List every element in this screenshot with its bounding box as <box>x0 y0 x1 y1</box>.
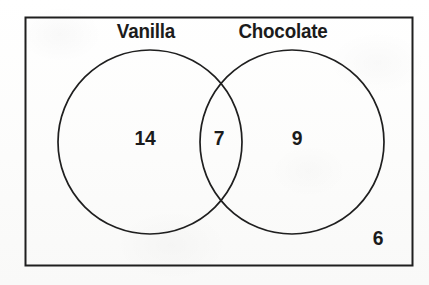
vanilla-set-label: Vanilla <box>99 20 193 43</box>
chocolate-only-count: 9 <box>276 126 318 150</box>
chocolate-set-label: Chocolate <box>226 20 341 43</box>
venn-diagram-figure: Vanilla Chocolate 14 7 9 6 <box>0 0 429 285</box>
intersection-count: 7 <box>198 126 240 150</box>
outside-sets-count: 6 <box>358 226 398 250</box>
vanilla-only-count: 14 <box>122 126 168 150</box>
